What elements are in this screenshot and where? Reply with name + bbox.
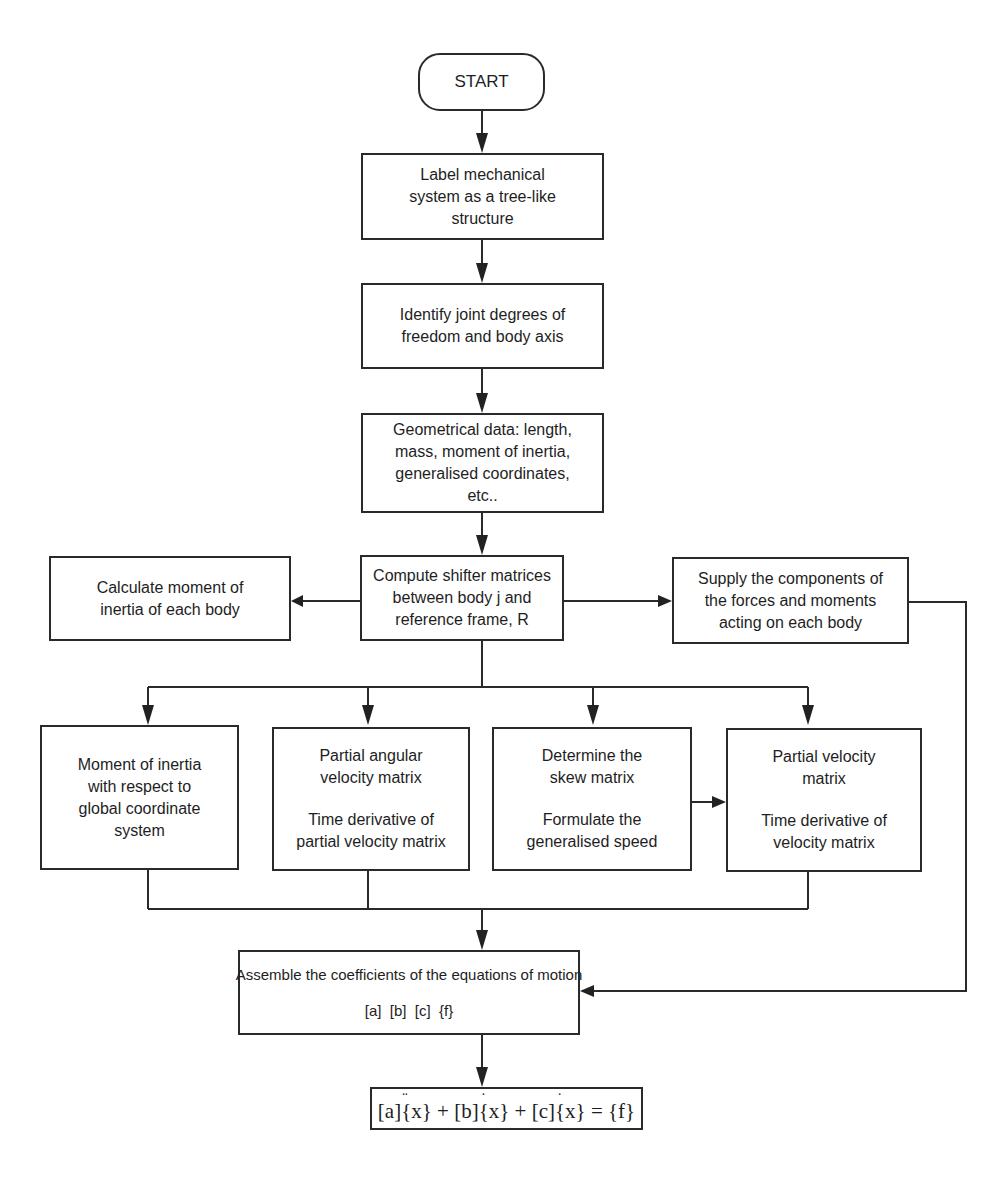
label-system-box: Label mechanical system as a tree-like s… [361, 153, 604, 240]
box-text: Identify joint degrees of [400, 304, 565, 326]
partial-velocity-box: Partial velocity matrix Time derivative … [726, 728, 922, 872]
box-text: structure [451, 208, 513, 230]
box-text: inertia of each body [100, 599, 240, 621]
geometrical-data-box: Geometrical data: length, mass, moment o… [361, 413, 604, 513]
calculate-moment-box: Calculate moment of inertia of each body [49, 556, 291, 641]
eq-b: [b] [454, 1100, 479, 1122]
box-text: global coordinate [79, 798, 201, 820]
box-text: Geometrical data: length, [393, 419, 572, 441]
assemble-coefficients-box: Assemble the coefficients of the equatio… [238, 950, 580, 1035]
box-text: generalised coordinates, [395, 463, 569, 485]
box-text: etc.. [467, 485, 497, 507]
box-text: Formulate the [543, 809, 642, 831]
coefficients-label: [a] [b] [c] {f} [365, 1000, 453, 1022]
eq-x-double-dot: {x} [401, 1100, 432, 1122]
box-text: velocity matrix [773, 832, 874, 854]
box-text: system as a tree-like [409, 186, 556, 208]
box-text: Label mechanical [420, 164, 545, 186]
skew-matrix-box: Determine the skew matrix Formulate the … [492, 727, 692, 871]
box-text: matrix [802, 768, 846, 790]
identify-dof-box: Identify joint degrees of freedom and bo… [361, 283, 604, 369]
box-text: Time derivative of [761, 810, 887, 832]
moment-global-box: Moment of inertia with respect to global… [40, 725, 239, 870]
box-title: Assemble the coefficients of the equatio… [236, 964, 583, 986]
partial-angular-box: Partial angular velocity matrix Time der… [272, 727, 470, 871]
eq-a: [a] [378, 1100, 401, 1122]
eq-plus: + [509, 1100, 531, 1122]
box-text: velocity matrix [320, 767, 421, 789]
box-text: skew matrix [550, 767, 634, 789]
box-text: with respect to [88, 776, 191, 798]
start-terminal: START [418, 53, 545, 111]
eq-f: {f} [608, 1100, 635, 1122]
box-text: Supply the components of [698, 568, 883, 590]
box-text: Moment of inertia [78, 754, 202, 776]
box-text: freedom and body axis [402, 326, 564, 348]
box-text: mass, moment of inertia, [395, 441, 570, 463]
box-text: Compute shifter matrices [373, 565, 551, 587]
eq-plus: + [432, 1100, 454, 1122]
eq-x-dot: {x} [555, 1100, 586, 1122]
box-text: generalised speed [527, 831, 658, 853]
box-text: partial velocity matrix [296, 831, 445, 853]
eq-c: [c] [532, 1100, 555, 1122]
box-text: acting on each body [719, 612, 862, 634]
box-text: Time derivative of [308, 809, 434, 831]
box-text: Partial angular [319, 745, 422, 767]
compute-shifter-box: Compute shifter matrices between body j … [360, 555, 564, 641]
eq-x-dot: {x} [479, 1100, 510, 1122]
box-text: reference frame, R [395, 609, 528, 631]
box-text: Calculate moment of [97, 577, 244, 599]
box-text: system [114, 820, 165, 842]
box-text: between body j and [393, 587, 532, 609]
supply-forces-box: Supply the components of the forces and … [672, 557, 909, 644]
box-text: the forces and moments [705, 590, 877, 612]
box-text: Partial velocity [772, 746, 875, 768]
equation-of-motion-box: [a] {x} + [b] {x} + [c] {x} = {f} [370, 1087, 643, 1130]
box-text: Determine the [542, 745, 643, 767]
eq-equals: = [586, 1100, 608, 1122]
start-label: START [454, 71, 508, 93]
